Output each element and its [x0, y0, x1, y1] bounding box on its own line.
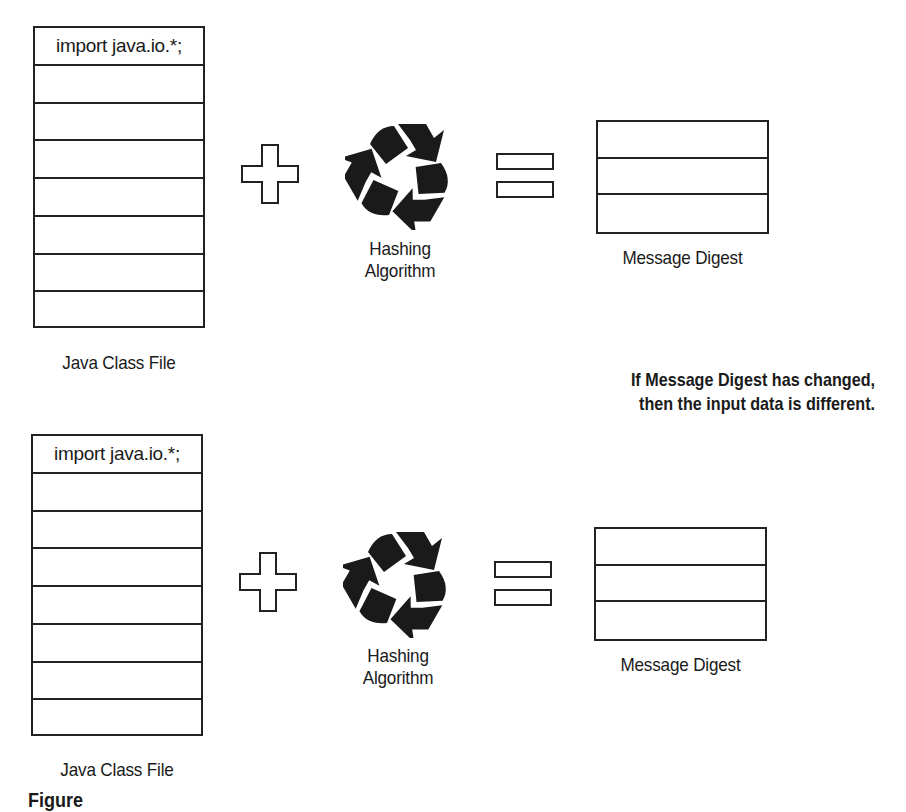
class-file-row — [35, 292, 203, 330]
note-line1: If Message Digest has changed, — [607, 368, 875, 392]
class-file-row — [35, 104, 203, 142]
hashing-algorithm-label: Hashing Algorithm — [344, 645, 452, 689]
class-file-row — [33, 700, 201, 738]
class-file-row — [33, 625, 201, 663]
equals-bar-bottom — [496, 181, 554, 198]
message-digest-box — [596, 120, 769, 234]
digest-row — [596, 529, 765, 566]
message-digest-label: Message Digest — [605, 247, 761, 269]
note-line2: then the input data is different. — [607, 392, 875, 416]
class-file-row — [33, 512, 201, 550]
equals-bar-top — [496, 153, 554, 170]
equals-bar-bottom — [494, 589, 552, 606]
hashing-algorithm-label: Hashing Algorithm — [346, 238, 454, 282]
digest-row — [598, 159, 767, 196]
hashing-label-line1: Hashing — [346, 238, 454, 260]
java-class-file-box: import java.io.*; — [31, 434, 203, 736]
figure-caption-clipped: Figure — [28, 789, 83, 812]
class-file-row — [35, 179, 203, 217]
message-digest-label: Message Digest — [603, 654, 759, 676]
java-class-file-label: Java Class File — [42, 352, 197, 374]
class-file-row — [35, 217, 203, 255]
hashing-label-line2: Algorithm — [346, 260, 454, 282]
class-file-row — [33, 587, 201, 625]
message-digest-box — [594, 527, 767, 641]
class-file-import-line: import java.io.*; — [35, 28, 203, 66]
digest-change-note: If Message Digest has changed, then the … — [607, 368, 875, 416]
hashing-label-line2: Algorithm — [344, 667, 452, 689]
plus-icon — [239, 552, 297, 612]
digest-row — [598, 122, 767, 159]
class-file-row — [33, 549, 201, 587]
java-class-file-box: import java.io.*; — [33, 26, 205, 328]
digest-row — [598, 195, 767, 232]
digest-row — [596, 566, 765, 603]
java-class-file-label: Java Class File — [40, 759, 195, 781]
class-file-row — [33, 474, 201, 512]
class-file-import-line: import java.io.*; — [33, 436, 201, 474]
digest-row — [596, 602, 765, 639]
recycle-icon — [343, 526, 453, 638]
equals-bar-top — [494, 561, 552, 578]
class-file-row — [35, 141, 203, 179]
class-file-row — [35, 255, 203, 293]
class-file-row — [33, 663, 201, 701]
plus-icon — [241, 144, 299, 204]
recycle-icon — [345, 118, 455, 230]
hashing-label-line1: Hashing — [344, 645, 452, 667]
class-file-row — [35, 66, 203, 104]
